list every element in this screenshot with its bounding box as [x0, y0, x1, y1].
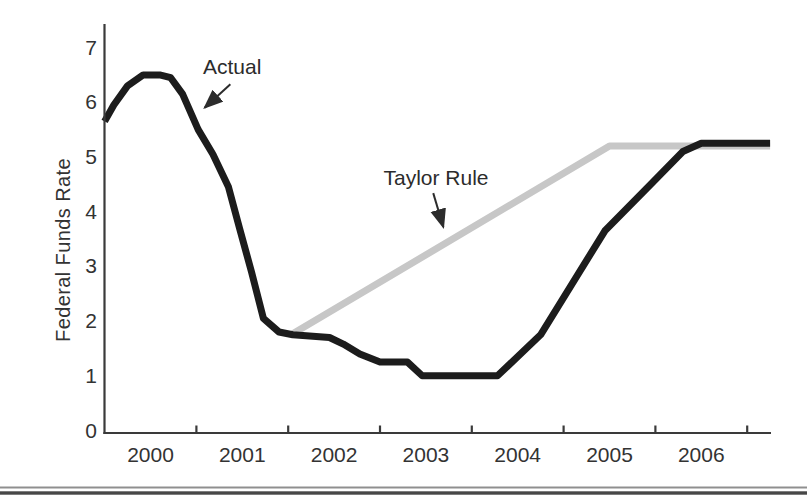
y-tick-label: 2: [85, 309, 97, 332]
annotation-actual-label: Actual: [203, 55, 261, 78]
bottom-rule-thick: [0, 491, 807, 494]
y-tick-label: 6: [85, 90, 97, 113]
series-line-actual: [105, 75, 771, 376]
x-tick-label: 2004: [494, 443, 541, 466]
chart-generated-layer: 200020012002200320042005200601234567: [85, 36, 770, 466]
series-line-taylor-rule: [291, 146, 770, 335]
x-tick-label: 2001: [219, 443, 266, 466]
x-tick-label: 2000: [127, 443, 174, 466]
y-tick-label: 5: [85, 145, 97, 168]
annotation-taylor-rule-label: Taylor Rule: [383, 166, 488, 189]
annotation-arrow: [433, 193, 443, 227]
y-tick-label: 0: [85, 419, 97, 442]
y-tick-label: 3: [85, 254, 97, 277]
y-tick-label: 1: [85, 364, 97, 387]
annotation-arrow: [205, 84, 231, 108]
y-tick-label: 7: [85, 36, 97, 59]
x-tick-label: 2006: [678, 443, 725, 466]
y-tick-label: 4: [85, 200, 97, 223]
bottom-rule-thin: [0, 487, 807, 489]
x-tick-label: 2003: [403, 443, 450, 466]
x-tick-label: 2005: [586, 443, 633, 466]
y-axis-title: Federal Funds Rate: [52, 158, 74, 342]
federal-funds-rate-chart: 200020012002200320042005200601234567 Fed…: [0, 0, 807, 496]
x-tick-label: 2002: [311, 443, 358, 466]
federal-funds-rate-figure: 200020012002200320042005200601234567 Fed…: [0, 0, 807, 496]
